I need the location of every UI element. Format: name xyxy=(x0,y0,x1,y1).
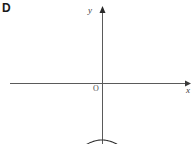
y-axis-arrowhead xyxy=(100,6,106,13)
choice-letter-label: D xyxy=(2,1,11,15)
parabola-curve xyxy=(26,140,181,144)
graph-figure: D y x O xyxy=(0,0,192,144)
y-axis-label: y xyxy=(88,6,92,15)
x-axis-label: x xyxy=(186,86,190,95)
origin-label: O xyxy=(93,84,99,93)
coordinate-plane-svg xyxy=(0,0,192,144)
